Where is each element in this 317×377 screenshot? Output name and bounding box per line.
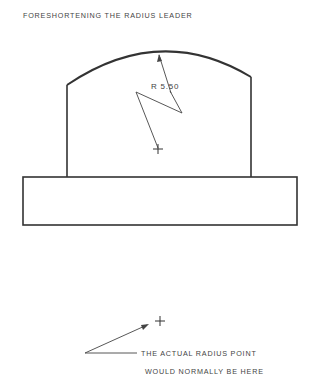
actual-center-mark xyxy=(155,316,165,326)
note-leader xyxy=(85,324,149,353)
radius-dimension-label: R 5.50 xyxy=(151,82,179,91)
drawing-title: FORESHORTENING THE RADIUS LEADER xyxy=(23,11,193,20)
technical-drawing: FORESHORTENING THE RADIUS LEADER R 5.50 xyxy=(0,0,317,377)
false-center-mark xyxy=(153,144,163,154)
note-line-1: THE ACTUAL RADIUS POINT xyxy=(141,349,257,358)
foreshortened-radius-leader xyxy=(136,54,182,148)
drawing-page: FORESHORTENING THE RADIUS LEADER R 5.50 xyxy=(0,0,317,377)
base-rectangle xyxy=(23,177,297,225)
note-line-2: WOULD NORMALLY BE HERE xyxy=(145,367,264,376)
upper-part-outline xyxy=(67,51,251,177)
